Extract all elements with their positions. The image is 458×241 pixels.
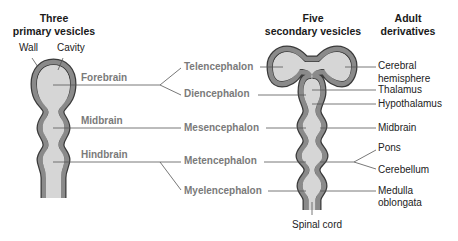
label-telencephalon: Telencephalon (184, 61, 253, 73)
label-medulla-line1: Medulla (378, 185, 422, 197)
header-primary-vesicles: Three primary vesicles (4, 12, 104, 37)
label-cerebellum: Cerebellum (378, 164, 429, 176)
label-medulla-line2: oblongata (378, 197, 422, 209)
header-secondary-line1: Five (258, 12, 368, 25)
label-diencephalon: Diencephalon (184, 88, 250, 100)
label-adult-midbrain: Midbrain (378, 122, 416, 134)
label-cerebral-hemisphere: Cerebral hemisphere (378, 60, 430, 85)
label-metencephalon: Metencephalon (184, 155, 257, 167)
label-thalamus: Thalamus (378, 84, 422, 96)
label-spinal-cord: Spinal cord (292, 219, 342, 231)
label-forebrain: Forebrain (81, 72, 127, 84)
label-primary-midbrain: Midbrain (81, 115, 123, 127)
header-primary-line1: Three (4, 12, 104, 25)
label-cerebral-line1: Cerebral (378, 60, 430, 72)
header-primary-line2: primary vesicles (4, 25, 104, 38)
primary-vesicle-tube (34, 62, 73, 198)
header-secondary-vesicles: Five secondary vesicles (258, 12, 368, 37)
label-hypothalamus: Hypothalamus (378, 98, 442, 110)
header-secondary-line2: secondary vesicles (258, 25, 368, 38)
label-cavity: Cavity (57, 42, 85, 54)
label-pons: Pons (378, 142, 401, 154)
label-medulla-oblongata: Medulla oblongata (378, 185, 422, 209)
header-adult-line1: Adult (368, 12, 448, 25)
secondary-vesicle-tube (270, 49, 354, 210)
label-wall: Wall (19, 42, 38, 54)
header-adult-line2: derivatives (368, 25, 448, 38)
brain-development-diagram: Three primary vesicles Five secondary ve… (0, 0, 458, 241)
label-mesencephalon: Mesencephalon (184, 122, 259, 134)
label-myelencephalon: Myelencephalon (184, 185, 262, 197)
label-hindbrain: Hindbrain (81, 149, 128, 161)
header-adult-derivatives: Adult derivatives (368, 12, 448, 37)
